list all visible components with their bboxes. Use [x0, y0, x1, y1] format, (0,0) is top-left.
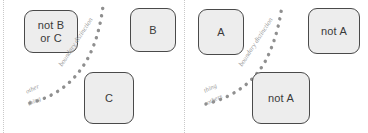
node-not-a-bottom[interactable]: not A: [252, 72, 310, 124]
right-panel: A not A not A boundary distinction thing…: [184, 0, 368, 133]
diagram-canvas: not B or C B C boundary distinction othe…: [0, 0, 368, 133]
node-not-a-top[interactable]: not A: [308, 8, 360, 54]
node-label: B: [149, 24, 157, 37]
node-label: not A: [321, 25, 347, 38]
node-label: not B or C: [38, 19, 65, 44]
node-a[interactable]: A: [198, 9, 244, 55]
node-label: not A: [268, 92, 294, 105]
node-label: A: [217, 26, 225, 39]
node-label: C: [105, 92, 113, 105]
node-c[interactable]: C: [84, 72, 134, 124]
left-panel: not B or C B C boundary distinction othe…: [0, 0, 184, 133]
node-b[interactable]: B: [130, 8, 176, 52]
